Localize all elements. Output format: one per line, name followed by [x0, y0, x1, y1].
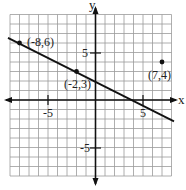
x-axis — [4, 95, 178, 105]
coordinate-plane: (-8,6) (-2,3) (7,4) -5 5 5 -5 x y — [0, 0, 186, 190]
right-arrow-icon — [170, 97, 178, 103]
left-arrow-icon — [4, 97, 12, 103]
point-label-7-4: (7,4) — [148, 68, 171, 82]
point-neg8-6 — [17, 41, 22, 46]
tick-label-y-5: 5 — [82, 46, 88, 60]
point-label-neg8-6: (-8,6) — [27, 35, 54, 49]
tick-label-y-neg5: -5 — [80, 141, 90, 155]
tick-label-x-neg5: -5 — [43, 106, 53, 120]
down-arrow-icon — [93, 178, 99, 186]
point-label-neg2-3: (-2,3) — [64, 77, 91, 91]
point-neg2-3 — [74, 69, 79, 74]
x-axis-label: x — [178, 92, 185, 107]
y-axis-label: y — [89, 0, 96, 12]
y-axis — [90, 6, 101, 186]
tick-label-x-5: 5 — [140, 106, 146, 120]
point-7-4 — [160, 60, 165, 65]
